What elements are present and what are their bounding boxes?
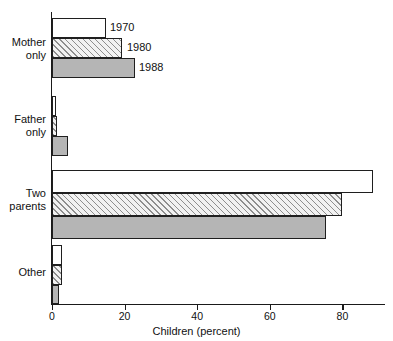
series-annotation-1988: 1988 [139, 61, 163, 73]
category-label-father-only: Father only [0, 113, 46, 138]
bar-father-only-1970 [52, 96, 56, 116]
category-label-mother-only: Mother only [0, 36, 46, 61]
x-axis-title: Children (percent) [0, 325, 393, 338]
category-label-other: Other [0, 266, 46, 279]
bar-other-1970 [52, 245, 62, 265]
bar-mother-only-1988 [52, 58, 135, 78]
category-label-two-parents: Two parents [0, 187, 46, 212]
series-annotation-1970: 1970 [110, 21, 134, 33]
bar-other-1988 [52, 285, 59, 304]
series-annotation-1980: 1980 [127, 41, 151, 53]
bar-other-1980 [52, 265, 62, 285]
x-tick-label-60: 60 [264, 310, 276, 322]
bar-two-parents-1980 [52, 193, 342, 216]
x-tick-label-80: 80 [337, 310, 349, 322]
bar-chart: 0 20 40 60 80 Children (percent) Mother … [0, 0, 393, 341]
x-tick-label-20: 20 [119, 310, 131, 322]
x-tick-label-40: 40 [191, 310, 203, 322]
plot-area: 0 20 40 60 80 Children (percent) Mother … [0, 0, 393, 341]
bar-father-only-1988 [52, 136, 68, 156]
bar-mother-only-1970 [52, 18, 106, 38]
x-axis-line [51, 304, 385, 305]
bar-two-parents-1970 [52, 170, 373, 193]
bar-father-only-1980 [52, 116, 57, 136]
bar-mother-only-1980 [52, 38, 122, 58]
bar-two-parents-1988 [52, 216, 326, 239]
x-tick-label-0: 0 [49, 310, 55, 322]
